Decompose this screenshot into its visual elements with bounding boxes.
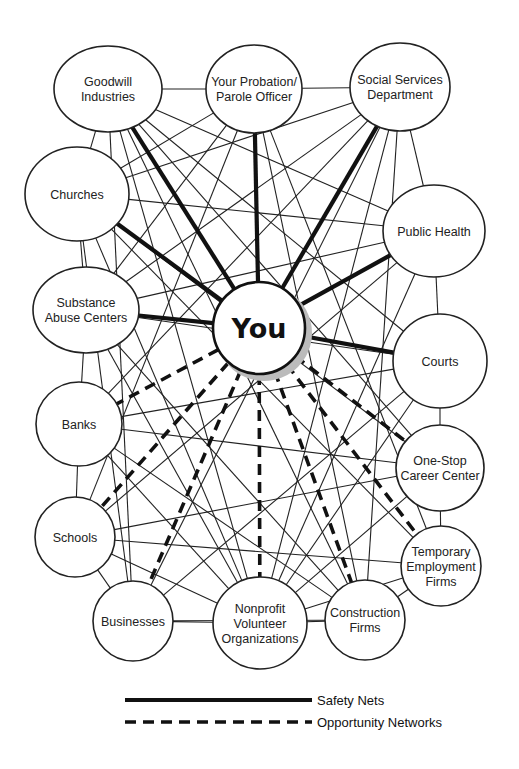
node-label: Businesses [101, 615, 165, 629]
node-label: Social Services [357, 73, 442, 87]
node-businesses: Businesses [93, 581, 173, 661]
node-onestop: One-StopCareer Center [396, 425, 484, 511]
link-substance-nonprofit [108, 349, 238, 582]
node-goodwill: GoodwillIndustries [54, 46, 162, 132]
opportunity-link-businesses [149, 370, 241, 584]
node-construction: ConstructionFirms [325, 580, 405, 660]
link-probation-social [302, 88, 350, 89]
node-ellipse [396, 425, 484, 511]
node-label: Public Health [397, 225, 471, 239]
link-goodwill-onestop [139, 124, 412, 435]
node-substance: SubstanceAbuse Centers [33, 267, 139, 353]
node-label: Schools [53, 531, 97, 545]
safety-net-link-probation [255, 133, 258, 282]
node-label: Your Probation/ [211, 75, 297, 89]
safety-net-link-courts [304, 336, 394, 352]
node-ellipse [33, 267, 139, 353]
node-banks: Banks [36, 382, 122, 466]
you-label: You [231, 313, 287, 344]
link-churches-goodwill [90, 131, 95, 149]
node-ellipse [325, 580, 405, 660]
link-social-publichealth [410, 130, 423, 186]
node-label: Firms [349, 621, 380, 635]
node-label: Abuse Centers [45, 311, 128, 325]
legend: Safety Nets Opportunity Networks [125, 693, 442, 730]
node-ellipse [206, 45, 302, 133]
safety-net-link-social [282, 126, 377, 288]
link-schools-banks [76, 466, 77, 497]
node-label: Substance [56, 296, 115, 310]
node-label: Firms [425, 575, 456, 589]
link-onestop-schools [114, 476, 397, 529]
node-label: Parole Officer [216, 90, 292, 104]
node-label: Employment [406, 560, 476, 574]
opportunity-link-nonprofit [259, 374, 260, 577]
link-publichealth-courts [436, 277, 438, 314]
opportunity-link-construction [275, 371, 352, 582]
node-label: Organizations [221, 632, 298, 646]
link-temporary-construction [398, 589, 409, 597]
opportunity-link-temporary [287, 365, 417, 535]
link-substance-churches [81, 241, 83, 267]
node-label: Temporary [411, 545, 471, 559]
node-label: Banks [62, 418, 97, 432]
node-label: Churches [50, 188, 104, 202]
node-label: Volunteer [234, 617, 287, 631]
node-label: Construction [330, 606, 400, 620]
node-nonprofit: NonprofitVolunteerOrganizations [213, 577, 307, 669]
link-substance-construction [117, 345, 338, 591]
node-churches: Churches [25, 147, 129, 241]
legend-opportunity-label: Opportunity Networks [317, 715, 442, 730]
node-label: Industries [81, 90, 135, 104]
node-label: Nonprofit [235, 602, 286, 616]
node-probation: Your Probation/Parole Officer [206, 45, 302, 133]
node-temporary: TemporaryEmploymentFirms [401, 526, 481, 606]
node-ellipse [350, 43, 450, 131]
link-churches-temporary [111, 229, 413, 537]
node-courts: Courts [393, 314, 487, 408]
node-social: Social ServicesDepartment [350, 43, 450, 131]
node-schools: Schools [35, 497, 115, 577]
network-diagram: GoodwillIndustriesYour Probation/Parole … [0, 0, 519, 769]
node-label: Goodwill [84, 75, 132, 89]
node-ellipse [54, 46, 162, 132]
legend-safety-label: Safety Nets [317, 693, 385, 708]
link-construction-nonprofit [307, 621, 325, 622]
link-banks-substance [82, 353, 84, 382]
node-label: One-Stop [413, 454, 467, 468]
link-businesses-schools [98, 570, 111, 588]
link-nonprofit-businesses [173, 622, 213, 623]
node-label: Career Center [400, 469, 479, 483]
node-publichealth: Public Health [383, 185, 485, 277]
opportunity-link-banks [117, 350, 219, 404]
node-label: Courts [422, 355, 459, 369]
node-label: Department [367, 88, 433, 102]
